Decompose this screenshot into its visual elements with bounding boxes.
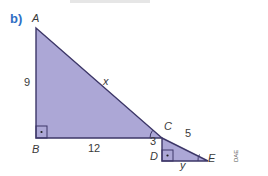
similar-triangles-diagram: b) A B C D E 9 12 x 3 5 y DAE (0, 0, 268, 176)
side-bc-label: 12 (88, 142, 100, 154)
credit-label: DAE (233, 150, 239, 162)
part-label: b) (10, 11, 22, 26)
cropped-text-remnant (70, 0, 150, 3)
vertex-a-label: A (31, 12, 39, 24)
vertex-b-label: B (32, 143, 39, 155)
side-ab-label: 9 (24, 76, 30, 88)
vertex-e-label: E (208, 152, 216, 164)
triangle-abc (36, 28, 162, 138)
vertex-c-label: C (164, 120, 172, 132)
side-cd-label: 3 (150, 135, 156, 147)
vertex-d-label: D (150, 150, 158, 162)
side-ce-label: 5 (185, 127, 191, 139)
side-ac-label: x (102, 75, 109, 87)
